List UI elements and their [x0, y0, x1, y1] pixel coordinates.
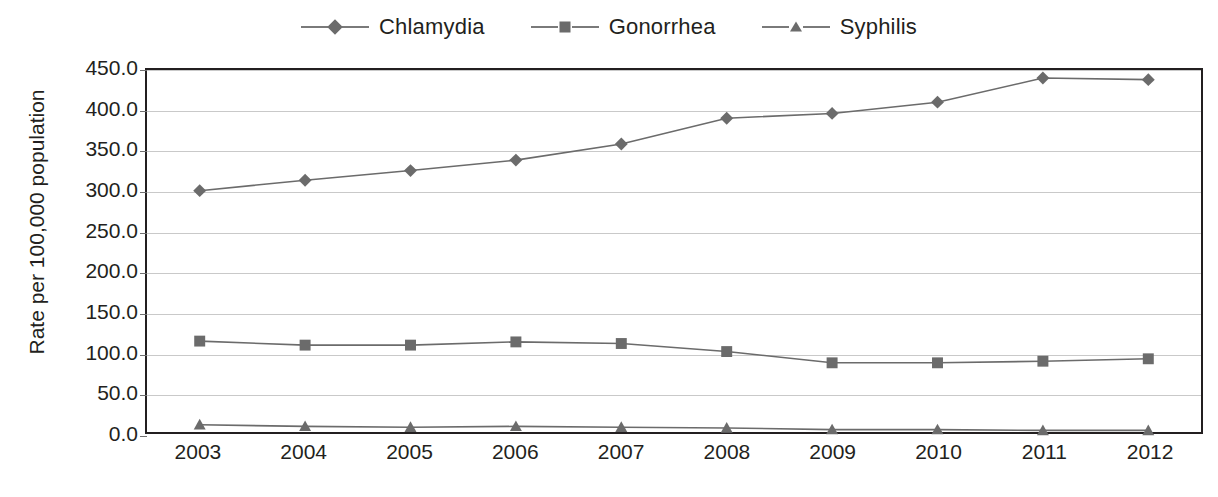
- square-marker-icon: [616, 338, 627, 349]
- y-axis-tick-label: 400.0: [85, 97, 138, 121]
- legend-line: [301, 26, 328, 28]
- x-axis-tick-label: 2007: [598, 440, 645, 464]
- x-axis-tick-label: 2010: [915, 440, 962, 464]
- y-axis-tick: [140, 233, 147, 234]
- legend-label: Chlamydia: [379, 14, 485, 40]
- series-line: [200, 425, 1149, 431]
- diamond-marker-icon: [720, 112, 733, 125]
- square-marker-icon: [405, 340, 416, 351]
- square-marker-icon: [827, 357, 838, 368]
- legend-item-chlamydia[interactable]: Chlamydia: [301, 14, 485, 40]
- series-gonorrhea: [194, 336, 1154, 369]
- x-axis-tick-label: 2006: [492, 440, 539, 464]
- chart-legend: Chlamydia Gonorrhea Syphilis: [0, 14, 1218, 40]
- y-axis-tick: [140, 70, 147, 71]
- square-marker-icon: [510, 336, 521, 347]
- y-axis-tick-label: 350.0: [85, 137, 138, 161]
- x-axis-tick-label: 2005: [386, 440, 433, 464]
- x-axis-tick-label: 2012: [1127, 440, 1174, 464]
- y-axis-tick-label: 300.0: [85, 178, 138, 202]
- y-axis-tick-label: 450.0: [85, 56, 138, 80]
- series-chlamydia: [193, 72, 1155, 197]
- y-axis-tick-label: 250.0: [85, 219, 138, 243]
- series-syphilis: [194, 419, 1155, 435]
- square-marker-icon: [194, 336, 205, 347]
- y-axis-tick: [140, 314, 147, 315]
- y-axis-tick-label: 200.0: [85, 259, 138, 283]
- y-axis-tick-label: 100.0: [85, 341, 138, 365]
- y-axis-tick: [140, 436, 147, 437]
- legend-label: Gonorrhea: [609, 14, 716, 40]
- y-axis-tick-label: 0.0: [109, 422, 138, 446]
- square-marker-icon: [1143, 353, 1154, 364]
- x-axis-tick-labels: 2003200420052006200720082009201020112012: [145, 440, 1203, 470]
- series-line: [200, 78, 1149, 191]
- diamond-marker-icon: [299, 174, 312, 187]
- square-marker-icon: [300, 340, 311, 351]
- x-axis-tick-label: 2004: [280, 440, 327, 464]
- y-axis-tick: [140, 273, 147, 274]
- x-axis-tick-label: 2011: [1022, 440, 1067, 464]
- diamond-marker-icon: [826, 107, 839, 120]
- legend-line: [572, 26, 599, 28]
- diamond-marker-icon: [1036, 72, 1049, 85]
- y-axis-tick: [140, 355, 147, 356]
- diamond-marker-icon: [404, 164, 417, 177]
- diamond-marker-icon: [1142, 73, 1155, 86]
- square-marker-icon: [721, 346, 732, 357]
- series-layer: [147, 70, 1201, 432]
- y-axis-tick-labels: 0.050.0100.0150.0200.0250.0300.0350.0400…: [38, 0, 138, 497]
- legend-line: [531, 26, 558, 28]
- y-axis-tick: [140, 151, 147, 152]
- diamond-marker-icon: [931, 96, 944, 109]
- y-axis-tick: [140, 111, 147, 112]
- legend-label: Syphilis: [840, 14, 917, 40]
- diamond-marker-icon: [509, 154, 522, 167]
- diamond-marker-icon: [193, 184, 206, 197]
- square-marker-icon: [558, 20, 572, 34]
- legend-item-gonorrhea[interactable]: Gonorrhea: [531, 14, 716, 40]
- square-marker-icon: [1037, 356, 1048, 367]
- diamond-marker-icon: [615, 138, 628, 151]
- x-axis-tick-label: 2003: [175, 440, 222, 464]
- triangle-marker-icon: [789, 20, 803, 34]
- y-axis-tick: [140, 192, 147, 193]
- y-axis-tick: [140, 395, 147, 396]
- series-line: [200, 341, 1149, 363]
- legend-line: [762, 26, 789, 28]
- diamond-marker-icon: [328, 20, 342, 34]
- legend-item-syphilis[interactable]: Syphilis: [762, 14, 917, 40]
- y-axis-tick-label: 50.0: [97, 381, 138, 405]
- chart-container: Chlamydia Gonorrhea Syphilis Rate per 10…: [0, 0, 1218, 497]
- plot-area: [145, 68, 1203, 434]
- x-axis-tick-label: 2008: [704, 440, 751, 464]
- square-marker-icon: [932, 357, 943, 368]
- legend-line: [342, 26, 369, 28]
- x-axis-tick-label: 2009: [809, 440, 856, 464]
- y-axis-tick-label: 150.0: [85, 300, 138, 324]
- legend-line: [803, 26, 830, 28]
